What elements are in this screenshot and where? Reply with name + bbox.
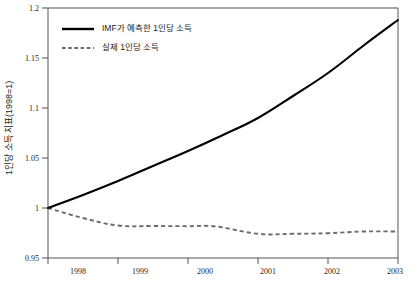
chart-container: 1.2 1.15 1.1 1.05 1 0.95 1998 1999 2000 …	[0, 0, 420, 285]
series-line-forecast	[48, 20, 398, 208]
y-axis-ticks: 1.2 1.15 1.1 1.05 1 0.95	[25, 4, 48, 263]
x-tick-label: 1998	[70, 267, 86, 276]
x-tick-label: 2003	[387, 267, 403, 276]
x-tick-label: 2001	[260, 267, 276, 276]
x-tick-label: 2000	[197, 267, 213, 276]
y-tick-label: 1.1	[29, 104, 39, 113]
y-tick-label: 1	[35, 204, 39, 213]
line-chart: 1.2 1.15 1.1 1.05 1 0.95 1998 1999 2000 …	[0, 0, 420, 285]
legend-label-forecast: IMF가 예측한 1인당 소득	[102, 23, 192, 33]
y-tick-label: 1.05	[25, 154, 39, 163]
series-line-actual	[48, 208, 398, 234]
x-axis-ticks: 1998 1999 2000 2001 2002 2003	[48, 258, 403, 276]
y-tick-label: 1.15	[25, 54, 39, 63]
y-tick-label: 0.95	[25, 254, 39, 263]
x-tick-label: 1999	[132, 267, 148, 276]
legend-label-actual: 실제 1인당 소득	[102, 42, 159, 52]
y-tick-label: 1.2	[29, 4, 39, 13]
chart-legend: IMF가 예측한 1인당 소득 실제 1인당 소득	[62, 23, 192, 52]
y-axis-title: 1인당 소득 지표(1998=1)	[4, 81, 14, 175]
x-tick-label: 2002	[324, 267, 340, 276]
